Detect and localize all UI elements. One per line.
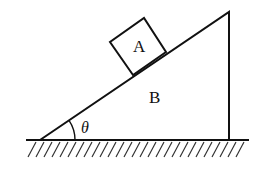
angle-arc: [69, 120, 75, 140]
block-a-label: A: [133, 37, 146, 56]
ground-hatching: [28, 142, 244, 157]
incline-diagram: A B θ: [0, 0, 262, 171]
wedge-b-label: B: [149, 88, 160, 107]
angle-theta-label: θ: [81, 119, 89, 136]
